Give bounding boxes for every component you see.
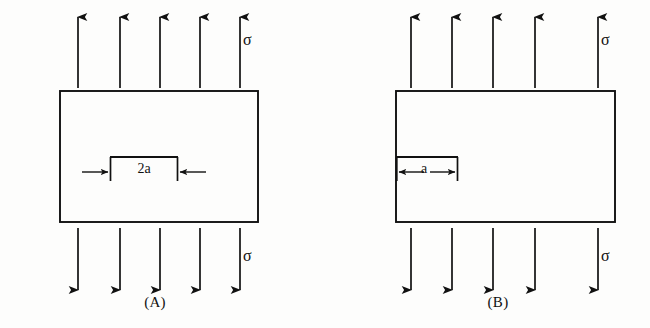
panel-caption-b: (B)	[448, 294, 548, 311]
stress-symbol-b-bottom: σ	[601, 247, 610, 265]
stress-symbol-a-bottom: σ	[243, 247, 252, 265]
stress-symbol-b-top: σ	[601, 31, 610, 49]
panel-a-group	[60, 17, 258, 290]
panel-caption-a: (A)	[105, 294, 205, 311]
crack-length-label-a: 2a	[114, 161, 174, 177]
diagram-canvas	[0, 0, 650, 328]
panel-a-bottom-arrows	[78, 228, 240, 290]
panel-b-top-arrows	[411, 17, 598, 88]
fracture-diagram-figure: 2a a σ σ σ σ (A) (B)	[0, 0, 650, 328]
panel-b-group	[396, 17, 615, 290]
panel-a-top-arrows	[78, 17, 240, 88]
panel-b-bottom-arrows	[411, 228, 598, 290]
stress-symbol-a-top: σ	[243, 31, 252, 49]
crack-length-label-b: a	[404, 161, 444, 177]
